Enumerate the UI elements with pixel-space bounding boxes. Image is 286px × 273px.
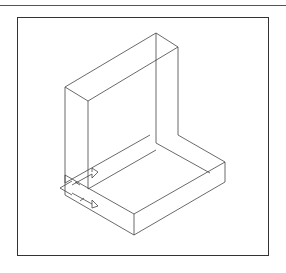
dimension-arrows bbox=[60, 168, 98, 208]
wall bbox=[65, 33, 178, 189]
base-slab bbox=[65, 135, 225, 235]
isometric-drawing bbox=[0, 0, 286, 273]
